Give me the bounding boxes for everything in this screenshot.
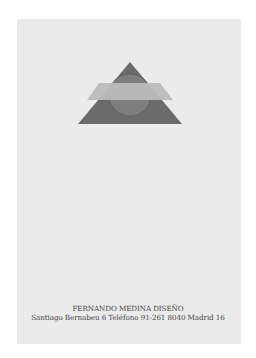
company-name: FERNANDO MEDINA DISEÑO xyxy=(0,304,256,313)
company-address: Santiago Bernabeu 6 Teléfono 91-261 8040… xyxy=(0,313,256,322)
band-shape xyxy=(87,83,173,100)
